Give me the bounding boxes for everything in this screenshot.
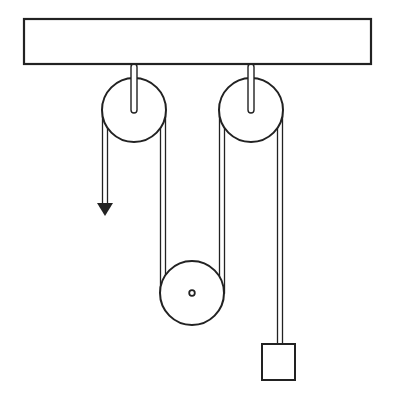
pulley-diagram-canvas: [0, 0, 396, 394]
ceiling-beam: [24, 19, 371, 64]
fixed-pulley-right: [219, 64, 283, 142]
pulley-diagram: [0, 0, 396, 394]
hanging-weight-block: [262, 344, 295, 380]
fixed-pulley-left: [102, 64, 166, 142]
pull-direction-arrow-icon: [97, 203, 113, 216]
pulley-axle-rod: [248, 64, 254, 113]
rope-left-to-movable: [161, 110, 166, 293]
pulleys: [102, 64, 283, 325]
movable-pulley: [160, 261, 224, 325]
rope-right-to-weight: [278, 110, 283, 344]
pulley-axle-rod: [131, 64, 137, 113]
pulley-axle: [189, 290, 195, 296]
rope-movable-to-right: [220, 110, 225, 293]
